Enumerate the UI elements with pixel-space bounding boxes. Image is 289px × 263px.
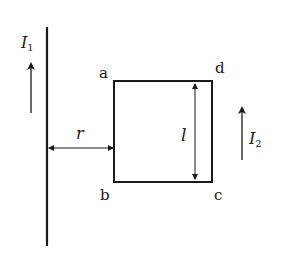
corner-label-c: c [214, 186, 222, 204]
distance-label: r [76, 124, 85, 143]
wire-loop-diagram: I1 a d b c l r I2 [0, 0, 289, 263]
square-loop [114, 81, 212, 182]
corner-label-d: d [215, 59, 225, 77]
side-length-label: l [181, 125, 186, 145]
corner-label-a: a [99, 64, 108, 82]
current-label-i1: I1 [20, 33, 34, 53]
current-label-i2: I2 [248, 129, 262, 149]
corner-label-b: b [100, 186, 110, 204]
